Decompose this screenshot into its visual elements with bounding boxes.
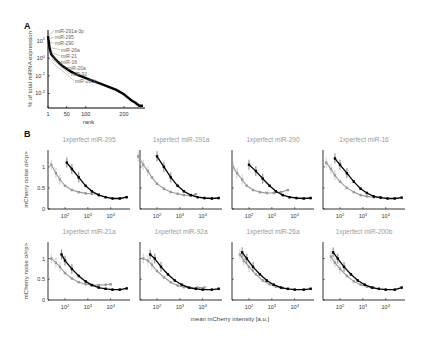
data-point <box>266 192 268 194</box>
data-point <box>119 197 121 199</box>
data-point <box>363 283 365 285</box>
data-point <box>195 288 197 290</box>
series-line <box>157 156 219 198</box>
data-point <box>248 164 250 166</box>
tick-label: 100 <box>37 54 46 62</box>
data-point <box>190 194 192 196</box>
tick-label: 103 <box>359 212 368 220</box>
tick-label: 104 <box>107 303 116 311</box>
subplot: 1xperfect miR-16102103104 <box>323 136 405 219</box>
data-point <box>246 185 248 187</box>
data-point <box>400 286 402 288</box>
data-point <box>170 281 172 283</box>
data-point <box>84 192 86 194</box>
mirna-annotation: miR-295 <box>55 34 74 40</box>
data-point <box>346 172 348 174</box>
data-point <box>64 272 66 274</box>
data-point <box>287 189 289 191</box>
series-line <box>62 254 127 289</box>
data-point <box>262 279 264 281</box>
data-point <box>268 185 270 187</box>
tick-label: 103 <box>176 303 185 311</box>
data-point <box>64 185 66 187</box>
data-point <box>252 189 254 191</box>
data-point <box>98 286 100 288</box>
subplot-title: 1xperfect miR-26a <box>246 228 299 236</box>
data-point <box>337 257 339 259</box>
y-axis-label: % of total miRNA expression <box>27 31 33 107</box>
data-point <box>104 196 106 198</box>
data-point <box>255 273 257 275</box>
mirna-annotation: miR-16 <box>61 59 77 65</box>
tick-label: 102 <box>336 212 345 220</box>
data-point <box>91 190 93 192</box>
subplot: 1xperfect miR-26a102103104 <box>232 228 314 310</box>
data-point <box>50 257 52 259</box>
data-point <box>50 164 52 166</box>
data-point <box>91 284 93 286</box>
x-axis-label: rank <box>83 119 96 125</box>
data-point <box>66 161 68 163</box>
data-point <box>71 268 73 270</box>
mirna-annotation: miR-290 <box>55 40 74 46</box>
data-point <box>339 164 341 166</box>
tick-label: 102 <box>153 212 162 220</box>
mirna-annotation: miR-26a <box>61 47 80 53</box>
data-point <box>111 197 113 199</box>
data-point <box>176 193 178 195</box>
tick-label: 102 <box>245 303 254 311</box>
data-point <box>170 176 172 178</box>
mirna-annotation: miR-92 <box>71 71 87 77</box>
series-line <box>249 165 311 199</box>
y-axis-label: mCherry noise σ/<p> <box>23 242 29 299</box>
tick-label: 104 <box>291 212 300 220</box>
tick-label: 50 <box>64 111 70 117</box>
data-point <box>287 288 289 290</box>
data-point <box>371 286 373 288</box>
data-point <box>255 170 257 172</box>
subplot: 1xperfect miR-291a102103104 <box>137 136 222 219</box>
data-point <box>259 273 261 275</box>
data-point <box>353 280 355 282</box>
data-point <box>275 190 277 192</box>
data-point <box>142 257 144 259</box>
series-line <box>67 163 127 199</box>
data-point <box>201 288 203 290</box>
data-point <box>203 197 205 199</box>
data-point <box>243 259 245 261</box>
series-line <box>51 165 99 195</box>
data-point <box>183 194 185 196</box>
data-point <box>156 270 158 272</box>
subplot-title: 1xperfect miR-16 <box>339 136 389 144</box>
data-point <box>91 193 93 195</box>
data-point <box>343 266 345 268</box>
tick-label: 102 <box>245 212 254 220</box>
tick-label: 0.5 <box>37 185 45 191</box>
data-point <box>350 273 352 275</box>
data-point <box>400 196 402 198</box>
data-point <box>111 288 113 290</box>
data-point <box>339 180 341 182</box>
data-point <box>78 176 80 178</box>
tick-label: 103 <box>268 303 277 311</box>
mirna-annotation: miR-291a-3p <box>55 28 84 34</box>
data-point <box>332 251 334 253</box>
data-point <box>217 288 219 290</box>
data-point <box>195 193 197 195</box>
tick-label: 102 <box>61 303 70 311</box>
x-axis-label: mean mCherry intensity [a.u.] <box>191 316 270 322</box>
series-line <box>150 254 219 289</box>
data-point <box>183 190 185 192</box>
subplot-title: 1xperfect miR-200b <box>336 228 393 236</box>
data-point <box>239 253 241 255</box>
data-point <box>156 183 158 185</box>
data-point <box>147 170 149 172</box>
data-point <box>163 276 165 278</box>
tick-label: 200 <box>119 111 128 117</box>
tick-label: 104 <box>199 303 208 311</box>
data-point <box>151 176 153 178</box>
tick-label: 1 <box>42 256 45 262</box>
tick-label: 0.5 <box>37 276 45 282</box>
tick-label: 100 <box>81 111 90 117</box>
data-point <box>359 188 361 190</box>
